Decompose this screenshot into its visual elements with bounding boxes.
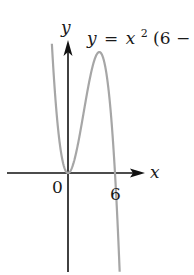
y-axis-label: y: [60, 17, 71, 37]
equation-exponent: 2: [141, 27, 148, 40]
equation-y: y: [86, 28, 97, 48]
equation-equals: =: [104, 28, 118, 48]
equation-paren: (6 −: [153, 28, 194, 48]
equation-label: y = x 2 (6 − x ): [86, 21, 194, 48]
curve-y-equals-x2-6-minus-x: [52, 44, 120, 272]
x-intercept-tick-label: 6: [110, 184, 121, 204]
equation-x: x: [126, 28, 136, 48]
origin-tick-label: 0: [52, 177, 63, 197]
x-axis-label: x: [150, 162, 160, 182]
cubic-graph: y x 0 6 y = x 2 (6 − x ): [0, 0, 194, 275]
